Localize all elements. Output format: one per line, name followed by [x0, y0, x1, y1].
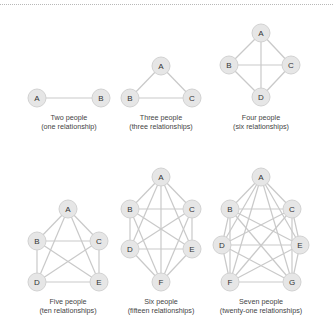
graph-title: Four people — [242, 113, 280, 122]
graph-subtitle: (three relationships) — [129, 122, 193, 131]
person-node-f: F — [152, 273, 170, 291]
person-node-d: D — [121, 240, 139, 258]
person-node-d: D — [252, 88, 270, 106]
node-label: D — [127, 245, 133, 254]
person-node-d: D — [213, 236, 231, 254]
node-label: A — [158, 62, 164, 71]
graph-title: Seven people — [239, 297, 283, 306]
node-label: A — [34, 94, 40, 103]
person-node-b: B — [92, 89, 110, 107]
node-label: A — [258, 29, 264, 38]
node-label: B — [127, 205, 132, 214]
person-node-b: B — [121, 89, 139, 107]
node-label: A — [158, 173, 164, 182]
relationship-edges — [37, 209, 99, 282]
node-label: C — [189, 205, 195, 214]
node-label: G — [289, 278, 295, 287]
node-label: C — [189, 94, 195, 103]
graph-title: Three people — [140, 113, 182, 122]
graph-subtitle: (one relationship) — [41, 122, 97, 131]
person-node-e: E — [90, 273, 108, 291]
node-label: B — [34, 237, 39, 246]
node-label: E — [189, 245, 194, 254]
person-node-a: A — [152, 57, 170, 75]
person-node-c: C — [183, 89, 201, 107]
graph-five-people: ABCDEFive people(ten relationships) — [28, 200, 108, 315]
node-label: E — [96, 278, 101, 287]
graph-two-people: ABTwo people(one relationship) — [28, 89, 110, 131]
relationship-network-diagram: ABTwo people(one relationship)ABCThree p… — [0, 0, 333, 330]
person-node-d: D — [28, 273, 46, 291]
person-node-a: A — [152, 168, 170, 186]
person-node-a: A — [28, 89, 46, 107]
graph-six-people: ABCDEFSix people(fifteen relationships) — [121, 168, 201, 315]
person-node-c: C — [282, 56, 300, 74]
node-label: D — [34, 278, 40, 287]
node-label: D — [219, 241, 225, 250]
person-node-g: G — [283, 273, 301, 291]
person-node-a: A — [252, 168, 270, 186]
person-node-f: F — [221, 273, 239, 291]
graph-subtitle: (ten relationships) — [39, 306, 96, 315]
node-label: F — [159, 278, 164, 287]
graph-title: Six people — [144, 297, 178, 306]
person-node-a: A — [252, 24, 270, 42]
graph-seven-people: ABCDEFGSeven people(twenty-one relations… — [213, 168, 309, 315]
node-label: A — [258, 173, 264, 182]
graph-title: Two people — [51, 113, 88, 122]
person-node-c: C — [283, 200, 301, 218]
node-label: B — [226, 61, 231, 70]
node-label: C — [289, 205, 295, 214]
graph-four-people: ABCDFour people(six relationships) — [220, 24, 300, 131]
node-label: B — [227, 205, 232, 214]
person-node-e: E — [183, 240, 201, 258]
node-label: F — [228, 278, 233, 287]
relationship-edges — [222, 177, 300, 282]
person-node-b: B — [220, 56, 238, 74]
node-label: C — [96, 237, 102, 246]
graph-subtitle: (fifteen relationships) — [128, 306, 195, 315]
person-node-a: A — [59, 200, 77, 218]
graph-subtitle: (twenty-one relationships) — [220, 306, 302, 315]
person-node-c: C — [90, 232, 108, 250]
node-label: D — [258, 93, 264, 102]
person-node-b: B — [28, 232, 46, 250]
graph-subtitle: (six relationships) — [233, 122, 289, 131]
node-label: C — [288, 61, 294, 70]
node-label: B — [127, 94, 132, 103]
graph-three-people: ABCThree people(three relationships) — [121, 57, 201, 131]
node-label: A — [65, 205, 71, 214]
relationship-edges — [130, 177, 192, 282]
person-node-c: C — [183, 200, 201, 218]
graph-title: Five people — [49, 297, 86, 306]
person-node-e: E — [291, 236, 309, 254]
person-node-b: B — [121, 200, 139, 218]
node-label: E — [297, 241, 302, 250]
person-node-b: B — [221, 200, 239, 218]
node-label: B — [98, 94, 103, 103]
